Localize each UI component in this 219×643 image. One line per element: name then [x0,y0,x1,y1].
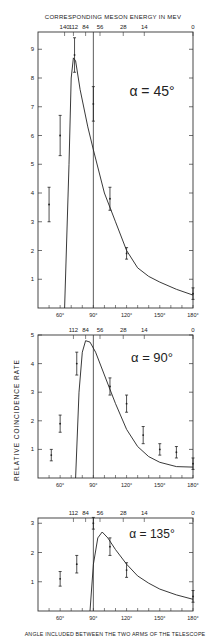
plot-panel-2: 1234560°90°120°150°180°112845628140α = 9… [31,327,199,488]
data-marker [74,54,76,56]
data-point [142,427,145,444]
y-tick-label: 3 [31,389,35,395]
y-tick-label: 4 [31,361,35,367]
top-tick-label: 14 [141,24,148,30]
top-tick-label: 0 [191,24,195,30]
panel-title: α = 90° [131,350,173,365]
y-tick-label: 3 [31,219,35,225]
y-tick-label: 2 [31,418,35,424]
x-tick-label: 120° [121,482,132,488]
x-tick-label: 60° [56,312,64,318]
top-tick-label: 28 [120,510,127,516]
data-marker [159,449,161,451]
y-tick-label: 6 [31,133,35,139]
data-marker [59,423,61,425]
data-point [59,115,62,155]
data-point [125,248,128,260]
plot-frame [38,32,193,308]
x-tick-label: 120° [121,312,132,318]
top-tick-label: 84 [82,24,89,30]
meson-coincidence-figure: 12345678960°90°120°150°180°1401128456281… [0,0,219,643]
data-marker [59,578,61,580]
data-marker [92,522,94,524]
y-tick-label: 5 [31,161,35,167]
data-marker [109,198,111,200]
y-tick-label: 7 [31,104,35,110]
data-point [108,538,111,556]
data-marker [76,363,78,365]
data-point [175,447,178,458]
top-axis-title: CORRESPONDING MESON ENERGY IN MEV [45,14,181,20]
data-point [92,517,95,529]
y-tick-label: 1 [31,579,35,585]
top-tick-label: 84 [82,510,89,516]
data-marker [192,463,194,465]
x-tick-label: 90° [89,482,97,488]
y-tick-label: 1 [31,276,35,282]
y-tick-label: 5 [31,332,35,338]
data-marker [192,595,194,597]
top-tick-label: 0 [191,510,195,516]
theory-curve [90,532,193,611]
panel-title: α = 135° [129,527,175,541]
x-tick-label: 150° [154,312,165,318]
data-marker [48,204,50,206]
data-marker [50,454,52,456]
y-tick-label: 2 [31,550,35,556]
y-tick-label: 8 [31,75,35,81]
top-tick-label: 56 [97,24,104,30]
top-tick-label: 112 [69,327,79,333]
y-axis-title: RELATIVE COINCIDENCE RATE [13,359,20,481]
data-point [59,415,62,432]
x-tick-label: 120° [121,615,132,621]
x-tick-label: 60° [56,615,64,621]
plot-panel-1: 12345678960°90°120°150°180°1401128456281… [31,24,199,318]
top-tick-label: 56 [97,510,104,516]
data-marker [92,103,94,105]
y-tick-label: 2 [31,248,35,254]
y-tick-label: 1 [31,446,35,452]
data-marker [109,386,111,388]
data-point [73,38,76,73]
panel-title: α = 45° [129,83,174,99]
top-tick-label: 112 [69,510,79,516]
top-tick-label: 0 [191,327,195,333]
data-point [59,572,62,587]
x-tick-label: 60° [56,482,64,488]
top-tick-label: 56 [97,327,104,333]
top-tick-label: 28 [120,24,127,30]
data-marker [175,451,177,453]
plot-panel-3: 12360°90°120°150°180°112845628140α = 135… [31,510,199,621]
y-tick-label: 4 [31,190,35,196]
y-tick-label: 3 [31,520,35,526]
data-point [108,187,111,210]
data-marker [59,135,61,137]
x-tick-label: 150° [154,482,165,488]
x-tick-label: 180° [187,312,198,318]
data-marker [126,403,128,405]
x-tick-label: 150° [154,615,165,621]
data-marker [192,293,194,295]
data-marker [142,434,144,436]
data-marker [126,569,128,571]
top-tick-label: 84 [82,327,89,333]
data-point [75,352,78,375]
top-tick-label: 112 [69,24,79,30]
data-point [92,87,95,122]
data-point [125,395,128,412]
data-marker [109,546,111,548]
bottom-axis-title: ANGLE INCLUDED BETWEEN THE TWO ARMS OF T… [25,631,206,637]
x-tick-label: 180° [187,615,198,621]
data-marker [76,563,78,565]
x-tick-label: 90° [89,615,97,621]
x-tick-label: 90° [89,312,97,318]
top-tick-label: 14 [141,510,148,516]
y-tick-label: 9 [31,46,35,52]
x-tick-label: 180° [187,482,198,488]
top-tick-label: 14 [141,327,148,333]
data-point [192,591,195,603]
top-tick-label: 28 [120,327,127,333]
data-point [158,444,161,455]
data-point [50,449,53,460]
data-point [75,555,78,573]
